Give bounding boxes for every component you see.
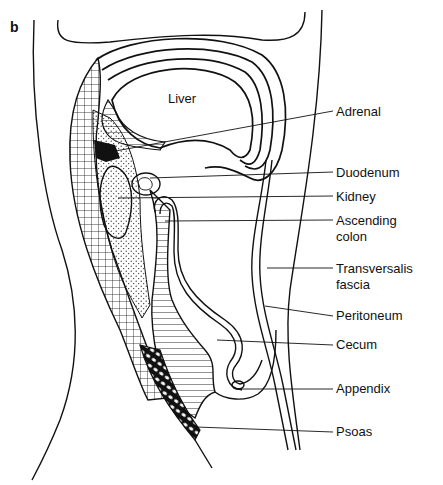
diagram-canvas: b Liver Adrenal <box>0 0 443 485</box>
anatomy-figure: b Liver Adrenal <box>0 0 443 485</box>
appendix <box>232 381 244 389</box>
label-ascending: Ascending <box>336 213 397 228</box>
panel-label: b <box>10 19 19 35</box>
transversalis-fascia-line <box>260 160 296 450</box>
label-duodenum: Duodenum <box>336 165 400 180</box>
psoas-tail <box>195 440 212 468</box>
body-outline-right <box>288 10 322 450</box>
label-fascia: fascia <box>336 277 371 292</box>
duodenum-lumen <box>138 178 152 190</box>
label-peritoneum: Peritoneum <box>336 308 402 323</box>
label-kidney: Kidney <box>336 189 376 204</box>
label-transversalis: Transversalis <box>336 261 413 276</box>
label-cecum: Cecum <box>336 337 377 352</box>
peritoneum-line <box>252 160 288 450</box>
liver-label: Liver <box>168 91 197 106</box>
label-adrenal: Adrenal <box>336 104 381 119</box>
body-outline-left <box>32 20 75 480</box>
label-psoas: Psoas <box>336 424 373 439</box>
label-colon: colon <box>336 229 367 244</box>
label-appendix: Appendix <box>336 381 391 396</box>
